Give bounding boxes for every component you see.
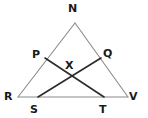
vertex-label-p: P: [32, 49, 40, 60]
vertex-label-n: N: [68, 3, 77, 14]
vertex-label-x: X: [65, 60, 73, 71]
vertex-label-r: R: [4, 91, 12, 102]
vertex-label-v: V: [129, 91, 138, 102]
geometry-figure: NPQXRSTV: [0, 0, 148, 118]
segment-pt: [45, 58, 104, 97]
vertex-label-s: S: [30, 104, 38, 115]
segment-nv: [75, 23, 128, 97]
geometry-canvas: [0, 0, 148, 118]
vertex-label-t: T: [99, 104, 107, 115]
vertex-label-q: Q: [103, 48, 112, 59]
